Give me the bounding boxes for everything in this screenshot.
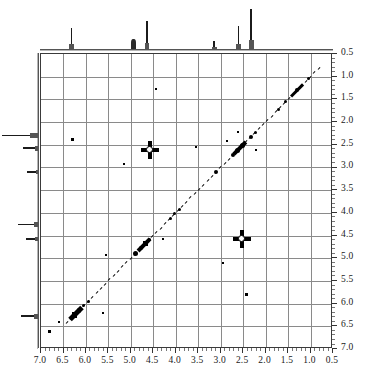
- diagonal-peak: [277, 108, 280, 111]
- x-axis-minor-tick: [139, 348, 140, 351]
- x-axis-major-tick: [107, 348, 108, 353]
- y-axis-major-tick: [332, 325, 337, 326]
- cross-peak: [255, 149, 257, 151]
- y-axis-minor-tick: [332, 334, 335, 335]
- x-axis-minor-tick: [305, 348, 306, 351]
- x-axis-minor-tick: [215, 348, 216, 351]
- top-projection-peak-shoulder: [145, 43, 150, 49]
- x-axis-minor-tick: [229, 348, 230, 351]
- y-axis-major-tick: [332, 144, 337, 145]
- x-axis-minor-tick: [283, 348, 284, 351]
- y-axis-tick-label: 2.0: [341, 115, 367, 125]
- x-axis-minor-tick: [251, 348, 252, 351]
- x-axis-minor-tick: [319, 348, 320, 351]
- diagonal-peak: [169, 217, 172, 220]
- x-axis-minor-tick: [188, 348, 189, 351]
- cross-peak-core: [146, 146, 153, 153]
- y-axis-minor-tick: [332, 180, 335, 181]
- y-axis-minor-tick: [332, 58, 335, 59]
- y-axis-minor-tick: [332, 271, 335, 272]
- x-axis-minor-tick: [256, 348, 257, 351]
- y-axis-major-tick: [332, 121, 337, 122]
- diagonal-ridge-segment: [117, 270, 120, 273]
- y-axis-tick-label: 3.0: [341, 160, 367, 170]
- y-axis-major-tick: [332, 212, 337, 213]
- y-axis-minor-tick: [332, 185, 335, 186]
- y-axis-minor-tick: [332, 94, 335, 95]
- spectrum-plot-area[interactable]: [40, 53, 332, 348]
- gridline-horizontal: [41, 190, 331, 191]
- diagonal-ridge-segment: [206, 179, 209, 182]
- y-axis-minor-tick: [332, 126, 335, 127]
- y-axis-minor-tick: [332, 330, 335, 331]
- x-axis-major-tick: [310, 348, 311, 353]
- y-axis-minor-tick: [332, 85, 335, 86]
- y-axis-minor-tick: [332, 344, 335, 345]
- top-projection-peak-shoulder: [212, 47, 217, 49]
- x-axis-minor-tick: [161, 348, 162, 351]
- x-axis-minor-tick: [292, 348, 293, 351]
- y-axis-minor-tick: [332, 71, 335, 72]
- x-axis-major-tick: [85, 348, 86, 353]
- x-axis-minor-tick: [260, 348, 261, 351]
- gridline-horizontal: [41, 122, 331, 123]
- y-axis-tick-label: 4.5: [341, 229, 367, 239]
- y-axis-minor-tick: [332, 262, 335, 263]
- cross-peak: [233, 230, 251, 248]
- x-axis-minor-tick: [166, 348, 167, 351]
- y-axis-minor-tick: [332, 307, 335, 308]
- cross-peak: [195, 146, 197, 148]
- top-projection-peak: [131, 39, 136, 49]
- diagonal-peak: [284, 100, 287, 103]
- y-axis-tick-label: 6.5: [341, 319, 367, 329]
- y-axis-major-tick: [332, 257, 337, 258]
- y-axis-tick-label: 1.5: [341, 92, 367, 102]
- x-axis-major-tick: [175, 348, 176, 353]
- gridline-horizontal: [41, 326, 331, 327]
- x-axis-minor-tick: [301, 348, 302, 351]
- y-axis-minor-tick: [332, 108, 335, 109]
- y-axis-minor-tick: [332, 244, 335, 245]
- y-axis-minor-tick: [332, 198, 335, 199]
- y-axis-minor-tick: [332, 239, 335, 240]
- diagonal-ridge-segment: [290, 83, 304, 97]
- x-axis-minor-tick: [278, 348, 279, 351]
- y-axis-major-tick: [332, 98, 337, 99]
- x-axis-minor-tick: [80, 348, 81, 351]
- x-axis-minor-tick: [94, 348, 95, 351]
- x-axis-minor-tick: [71, 348, 72, 351]
- y-axis-tick-label: 5.5: [341, 274, 367, 284]
- y-axis-minor-tick: [332, 230, 335, 231]
- diagonal-ridge-segment: [155, 231, 158, 234]
- left-projection-peak-shoulder: [35, 146, 38, 151]
- y-axis-minor-tick: [332, 171, 335, 172]
- y-axis-major-tick: [332, 235, 337, 236]
- y-axis-minor-tick: [332, 117, 335, 118]
- x-axis-minor-tick: [233, 348, 234, 351]
- x-axis-major-tick: [152, 348, 153, 353]
- left-projection-peak-shoulder: [34, 222, 38, 227]
- y-axis-minor-tick: [332, 216, 335, 217]
- left-projection-trace: [0, 53, 39, 348]
- x-axis-minor-tick: [184, 348, 185, 351]
- x-axis-minor-tick: [125, 348, 126, 351]
- y-axis-minor-tick: [332, 207, 335, 208]
- top-projection-baseline: [40, 49, 333, 50]
- diagonal-peak: [82, 304, 85, 307]
- diagonal-ridge-segment: [185, 201, 188, 204]
- cross-peak: [245, 293, 248, 296]
- diagonal-peak: [178, 208, 181, 211]
- diagonal-peak: [133, 251, 138, 256]
- left-projection-peak-shoulder: [30, 133, 38, 138]
- x-axis-minor-tick: [247, 348, 248, 351]
- y-axis-minor-tick: [332, 157, 335, 158]
- top-projection-peak-shoulder: [249, 40, 254, 49]
- x-axis-major-tick: [130, 348, 131, 353]
- y-axis-tick-label: 5.0: [341, 251, 367, 261]
- cross-peak: [71, 138, 74, 141]
- y-axis-minor-tick: [332, 153, 335, 154]
- x-axis-minor-tick: [170, 348, 171, 351]
- diagonal-ridge-segment: [91, 296, 94, 299]
- x-axis-minor-tick: [296, 348, 297, 351]
- y-axis-minor-tick: [332, 285, 335, 286]
